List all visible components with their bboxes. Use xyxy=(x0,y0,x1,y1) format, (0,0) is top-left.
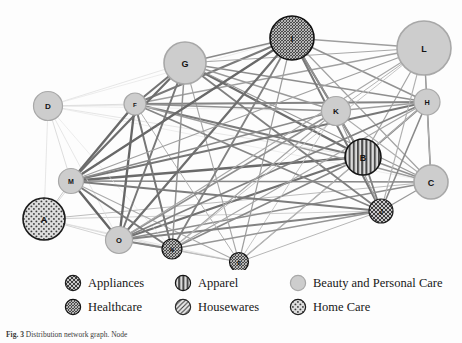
legend-item-housewares[interactable]: Housewares xyxy=(174,295,289,319)
node-circle xyxy=(23,198,65,240)
graph-edge xyxy=(48,106,336,111)
legend-label: Apparel xyxy=(198,277,238,290)
caption-text: Distribution network graph. Node xyxy=(26,330,128,339)
legend-row: AppliancesApparelBeauty and Personal Car… xyxy=(64,271,456,295)
graph-edge xyxy=(185,63,431,182)
node-circle xyxy=(369,199,393,223)
legend-item-beauty[interactable]: Beauty and Personal Care xyxy=(289,271,442,295)
legend-item-healthcare[interactable]: Healthcare xyxy=(64,295,174,319)
graph-node-g[interactable]: G xyxy=(164,42,206,84)
legend-label: Beauty and Personal Care xyxy=(313,277,442,290)
legend-item-apparel[interactable]: Apparel xyxy=(174,271,289,295)
healthcare-swatch-icon xyxy=(64,298,82,316)
node-circle xyxy=(414,165,448,199)
graph-node-h[interactable]: H xyxy=(414,89,440,115)
node-circle xyxy=(34,92,63,121)
graph-node-e[interactable]: E xyxy=(230,253,249,271)
node-circle xyxy=(345,139,381,175)
legend-label: Healthcare xyxy=(88,301,142,314)
figure-container: ABCDEFGHIJKLMNO AppliancesApparelBeauty … xyxy=(0,0,462,343)
legend-item-appliances[interactable]: Appliances xyxy=(64,271,174,295)
node-circle xyxy=(322,97,351,126)
graph-node-c[interactable]: C xyxy=(414,165,448,199)
legend-label: Home Care xyxy=(313,301,370,314)
graph-node-a[interactable]: A xyxy=(23,198,65,240)
legend-label: Housewares xyxy=(198,301,259,314)
legend-row: HealthcareHousewaresHome Care xyxy=(64,295,456,319)
graph-node-m[interactable]: M xyxy=(59,169,84,194)
appliances-swatch-icon xyxy=(64,274,82,292)
legend-label: Appliances xyxy=(88,277,144,290)
housewares-swatch-icon xyxy=(174,298,192,316)
graph-node-i[interactable]: I xyxy=(270,16,314,60)
legend: AppliancesApparelBeauty and Personal Car… xyxy=(64,271,456,319)
graph-edge xyxy=(71,181,239,262)
graph-node-o[interactable]: O xyxy=(106,227,133,254)
graph-node-k[interactable]: K xyxy=(322,97,351,126)
graph-node-n[interactable]: N xyxy=(162,239,182,259)
node-circle xyxy=(164,42,206,84)
node-circle xyxy=(230,253,249,271)
node-circle xyxy=(270,16,314,60)
graph-node-d[interactable]: D xyxy=(34,92,63,121)
legend-item-homecare[interactable]: Home Care xyxy=(289,295,370,319)
node-circle xyxy=(162,239,182,259)
graph-node-b[interactable]: B xyxy=(345,139,381,175)
node-circle xyxy=(106,227,133,254)
beauty-swatch-icon xyxy=(289,274,307,292)
node-circle xyxy=(397,21,451,75)
graph-node-f[interactable]: F xyxy=(124,93,146,115)
caption-label: Fig. 3 xyxy=(6,330,24,339)
homecare-swatch-icon xyxy=(289,298,307,316)
network-graph: ABCDEFGHIJKLMNO xyxy=(0,0,462,270)
graph-node-j[interactable]: J xyxy=(369,199,393,223)
figure-caption: Fig. 3 Distribution network graph. Node xyxy=(6,330,456,339)
node-circle xyxy=(414,89,440,115)
apparel-swatch-icon xyxy=(174,274,192,292)
graph-node-l[interactable]: L xyxy=(397,21,451,75)
node-circle xyxy=(124,93,146,115)
node-circle xyxy=(59,169,84,194)
graph-nodes: ABCDEFGHIJKLMNO xyxy=(23,16,451,270)
